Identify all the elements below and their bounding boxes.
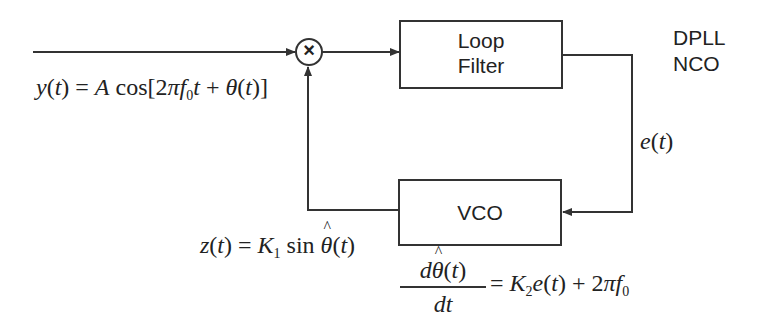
title-dpll: DPLL <box>673 25 726 51</box>
z-t2: t <box>340 232 347 258</box>
fraction-denominator: dt <box>400 291 486 318</box>
eq-theta: θ <box>225 74 237 100</box>
rhs-e: e <box>533 270 544 296</box>
z-t: t <box>217 232 224 258</box>
K1-letter: K <box>258 232 274 258</box>
vco-label: VCO <box>399 200 561 225</box>
multiplier-symbol: × <box>299 38 319 63</box>
rhs-t: t <box>551 270 558 296</box>
sin-func: sin <box>287 232 315 258</box>
loop-filter-label-line-2: Filter <box>400 53 562 78</box>
num-t: t <box>452 257 459 283</box>
input-signal-equation: y(t) = A cos[2πf0t + θ(t)] <box>36 74 268 104</box>
loop-filter-label: Loop Filter <box>400 28 562 78</box>
e-t: t <box>659 128 666 154</box>
diagram-title: DPLL NCO <box>673 25 726 77</box>
block-diagram-lines <box>0 0 772 336</box>
vco-equation-rhs: = K2e(t) + 2πf0 <box>490 270 629 300</box>
eq-pi: π <box>168 74 180 100</box>
eq-2: 2 <box>156 74 168 100</box>
eq-t: t <box>55 74 62 100</box>
feedback-signal-equation: z(t) = K1 sin θ(t) <box>200 232 355 262</box>
title-nco: NCO <box>673 51 726 77</box>
rhs-2: 2 <box>591 270 603 296</box>
K2-letter: K <box>510 270 526 296</box>
fraction-numerator: dθ(t) <box>400 257 486 284</box>
rhs-pi: π <box>603 270 615 296</box>
eq-A: A <box>95 74 110 100</box>
num-theta-hat: θ <box>432 257 444 284</box>
feedback-line <box>308 67 399 210</box>
eq-t2: t <box>193 74 200 100</box>
fraction-bar <box>400 286 486 288</box>
e-letter: e <box>640 128 651 154</box>
K1-sub: 1 <box>274 246 281 261</box>
num-d: d <box>420 257 432 283</box>
den-dt: dt <box>434 291 453 317</box>
theta-hat: θ <box>321 232 333 259</box>
filter-to-vco-line <box>562 55 632 212</box>
error-signal-label: e(t) <box>640 128 673 155</box>
z-letter: z <box>200 232 209 258</box>
eq-y: y <box>36 74 47 100</box>
eq-cos: cos <box>116 74 148 100</box>
vco-equation-fraction: dθ(t) dt <box>400 257 486 318</box>
loop-filter-label-line-1: Loop <box>400 28 562 53</box>
eq-t3: t <box>245 74 252 100</box>
rhs-sub0: 0 <box>622 284 629 299</box>
